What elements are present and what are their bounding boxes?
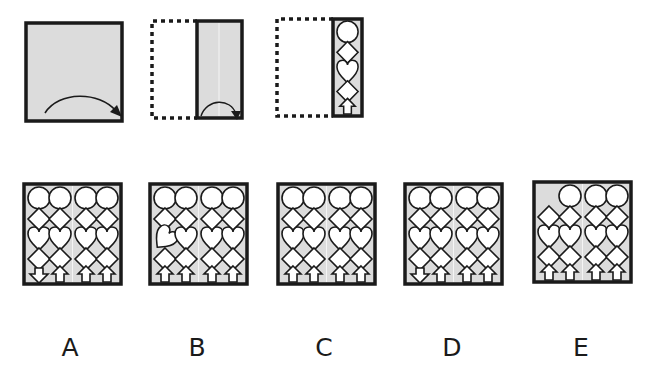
option-a-svg (22, 182, 124, 286)
option-a[interactable] (22, 182, 124, 286)
dotted-outline (277, 19, 333, 116)
option-a-label: A (50, 333, 90, 362)
paper-sheet (26, 23, 122, 121)
step-2-svg (149, 18, 245, 122)
option-b-label: B (177, 333, 217, 362)
dotted-outline (152, 21, 197, 118)
option-b-svg (148, 182, 250, 286)
option-e[interactable] (532, 180, 634, 284)
option-e-svg (532, 180, 634, 284)
step-1-svg (24, 21, 124, 123)
option-d-svg (403, 182, 505, 286)
option-c-svg (276, 182, 378, 286)
step-2-figure (149, 18, 245, 122)
option-c[interactable] (276, 182, 378, 286)
option-d[interactable] (403, 182, 505, 286)
option-b[interactable] (148, 182, 250, 286)
option-d-label: D (432, 333, 472, 362)
option-e-label: E (561, 333, 601, 362)
step-1-figure (24, 21, 124, 123)
step-3-figure (274, 16, 366, 120)
option-c-label: C (304, 333, 344, 362)
step-3-svg (274, 16, 366, 120)
